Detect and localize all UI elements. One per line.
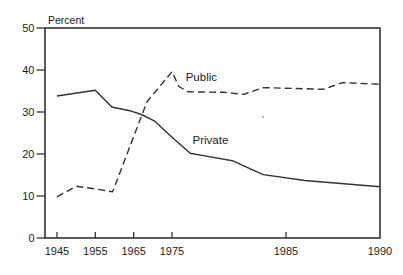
x-tick-label: 1945 — [45, 245, 69, 257]
y-axis-title: Percent — [48, 14, 84, 26]
y-tick-label: 50 — [22, 22, 34, 34]
line-chart: Percent 50403020100194519551965197519851… — [0, 0, 403, 275]
x-tick-label: 1985 — [274, 245, 298, 257]
y-tick-label: 40 — [22, 64, 34, 76]
x-tick-label: 1965 — [121, 245, 145, 257]
scan-speck — [262, 116, 264, 118]
plot-area: 50403020100194519551965197519851990Publi… — [22, 22, 392, 257]
x-tick-label: 1975 — [160, 245, 184, 257]
x-tick-label: 1955 — [83, 245, 107, 257]
x-tick-label: 1990 — [368, 245, 392, 257]
y-tick-label: 0 — [28, 232, 34, 244]
series-label-private: Private — [193, 134, 229, 146]
y-tick-label: 20 — [22, 148, 34, 160]
figure-page: Percent 50403020100194519551965197519851… — [0, 0, 403, 275]
y-tick-label: 10 — [22, 190, 34, 202]
series-label-public: Public — [186, 71, 218, 83]
y-tick-label: 30 — [22, 106, 34, 118]
